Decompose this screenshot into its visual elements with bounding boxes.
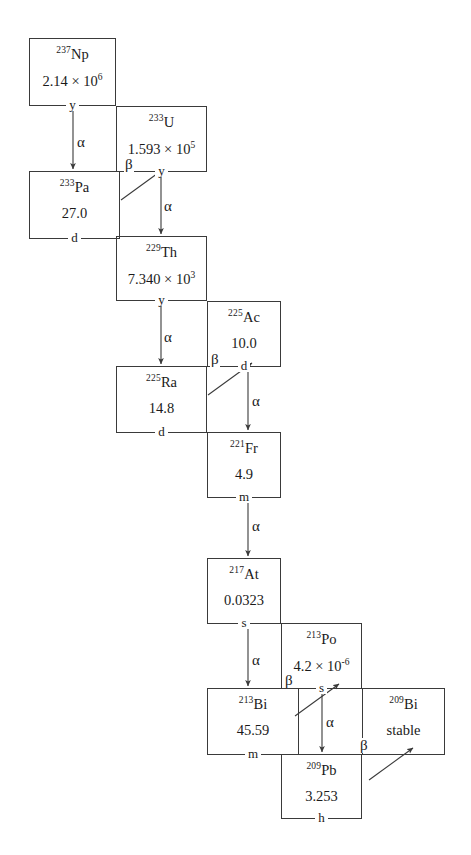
half-life-mantissa: 14.8 (149, 400, 174, 416)
element-symbol: Po (321, 631, 336, 647)
nuclide-symbol: 225Ra (146, 374, 177, 389)
half-life-mantissa: 27.0 (62, 205, 87, 221)
decay-label-beta: β (284, 673, 294, 688)
decay-label-alpha: α (163, 330, 173, 345)
half-life-base: × 10 (160, 271, 190, 287)
decay-label-alpha: α (251, 394, 261, 409)
mass-number: 209 (306, 761, 321, 771)
mass-number: 233 (149, 113, 164, 123)
element-symbol: U (164, 114, 174, 130)
nuclide-box-pb209: 209Pb3.253h (281, 754, 362, 819)
half-life-mantissa: 10.0 (231, 335, 256, 351)
half-life-unit: m (245, 747, 261, 760)
half-life-unit: d (155, 425, 168, 438)
element-symbol: Th (161, 244, 177, 260)
decay-label-alpha: α (325, 715, 335, 730)
half-life-mantissa: 0.0323 (224, 592, 264, 608)
half-life-exponent: -6 (342, 657, 350, 667)
half-life-base: × 10 (68, 73, 98, 89)
half-life-value: 14.8 (149, 401, 174, 416)
half-life-value: 27.0 (62, 206, 87, 221)
decay-label-beta: β (359, 738, 369, 753)
mass-number: 217 (229, 565, 244, 575)
half-life-unit: s (316, 681, 327, 694)
half-life-mantissa: 2.14 (42, 73, 67, 89)
mass-number: 233 (60, 178, 75, 188)
half-life-mantissa: 7.340 (128, 271, 161, 287)
nuclide-box-np237: 237Np2.14 × 106y (29, 38, 116, 106)
half-life-value: 7.340 × 103 (128, 271, 195, 286)
half-life-mantissa: 4.9 (235, 466, 253, 482)
mass-number: 237 (56, 45, 71, 55)
half-life-exponent: 6 (98, 72, 103, 82)
decay-label-alpha: α (163, 199, 173, 214)
half-life-exponent: 3 (190, 270, 195, 280)
half-life-mantissa: 1.593 (128, 141, 161, 157)
decay-label-alpha: α (251, 653, 261, 668)
nuclide-symbol: 209Bi (389, 696, 418, 711)
element-symbol: Pa (75, 179, 90, 195)
nuclide-box-bi213: 213Bi45.59m (207, 688, 299, 755)
half-life-unit: s (238, 616, 249, 629)
mass-number: 213 (306, 630, 321, 640)
element-symbol: Np (71, 46, 89, 62)
half-life-exponent: 5 (190, 140, 195, 150)
nuclide-symbol: 225Ac (228, 309, 260, 324)
half-life-value: 3.253 (305, 789, 338, 804)
nuclide-symbol: 221Fr (230, 440, 258, 455)
element-symbol: Pb (321, 762, 336, 778)
stability-text: stable (387, 723, 421, 738)
nuclide-box-fr221: 221Fr4.9m (207, 432, 281, 498)
half-life-value: 45.59 (237, 723, 270, 738)
nuclide-symbol: 233Pa (60, 179, 89, 194)
nuclide-box-ra225: 225Ra14.8d (116, 366, 207, 433)
half-life-value: 2.14 × 106 (42, 73, 102, 88)
half-life-base: × 10 (160, 141, 190, 157)
half-life-unit: y (155, 164, 168, 177)
element-symbol: Ra (161, 374, 177, 390)
half-life-mantissa: 45.59 (237, 722, 270, 738)
decay-label-beta: β (124, 157, 134, 172)
decay-label-alpha: α (251, 519, 261, 534)
half-life-unit: m (236, 490, 252, 503)
half-life-mantissa: 3.253 (305, 788, 338, 804)
element-symbol: Bi (404, 696, 418, 712)
nuclide-symbol: 213Po (306, 631, 336, 646)
nuclide-symbol: 237Np (56, 46, 89, 61)
half-life-unit: y (155, 293, 168, 306)
half-life-base: × 10 (312, 658, 342, 674)
half-life-mantissa: 4.2 (294, 658, 312, 674)
decay-label-alpha: α (76, 135, 86, 150)
half-life-value: 4.2 × 10-6 (294, 658, 350, 673)
half-life-value: 0.0323 (224, 593, 264, 608)
nuclide-box-at217: 217At0.0323s (207, 558, 281, 624)
nuclide-box-bi209: 209Bistable (362, 688, 445, 755)
mass-number: 225 (228, 308, 243, 318)
nuclide-symbol: 213Bi (239, 696, 268, 711)
half-life-unit: y (66, 98, 79, 111)
nuclide-symbol: 209Pb (306, 762, 336, 777)
mass-number: 209 (389, 695, 404, 705)
mass-number: 229 (146, 243, 161, 253)
half-life-mantissa: stable (387, 722, 421, 738)
half-life-value: 10.0 (231, 336, 256, 351)
nuclide-box-pa233: 233Pa27.0d (29, 171, 120, 239)
nuclide-symbol: 233U (149, 114, 174, 129)
mass-number: 225 (146, 373, 161, 383)
half-life-unit: h (315, 811, 328, 824)
decay-label-beta: β (210, 352, 220, 367)
element-symbol: Ac (243, 309, 260, 325)
half-life-value: 1.593 × 105 (128, 141, 195, 156)
element-symbol: Bi (254, 696, 268, 712)
element-symbol: Fr (245, 440, 258, 456)
half-life-unit: d (68, 231, 81, 244)
half-life-value: 4.9 (235, 467, 253, 482)
nuclide-symbol: 217At (229, 566, 258, 581)
nuclide-box-th229: 229Th7.340 × 103y (116, 236, 207, 301)
element-symbol: At (244, 566, 259, 582)
nuclide-symbol: 229Th (146, 244, 177, 259)
mass-number: 213 (239, 695, 254, 705)
half-life-unit: d (238, 359, 251, 372)
mass-number: 221 (230, 439, 245, 449)
decay-chain-diagram: 237Np2.14 × 106y233U1.593 × 105y233Pa27.… (0, 0, 471, 855)
